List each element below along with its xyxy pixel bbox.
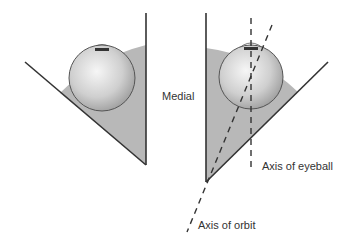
left-eyeball-sphere [69,45,135,111]
left-lens [95,48,109,51]
axis-of-orbit-label: Axis of orbit [198,219,255,231]
medial-label: Medial [162,90,194,102]
right-lens [244,47,258,50]
orbit-diagram [0,0,348,246]
left-orbit [25,13,146,165]
right-orbit [187,13,328,232]
axis-of-eyeball-label: Axis of eyeball [262,160,333,172]
left-eyeball [69,45,135,112]
